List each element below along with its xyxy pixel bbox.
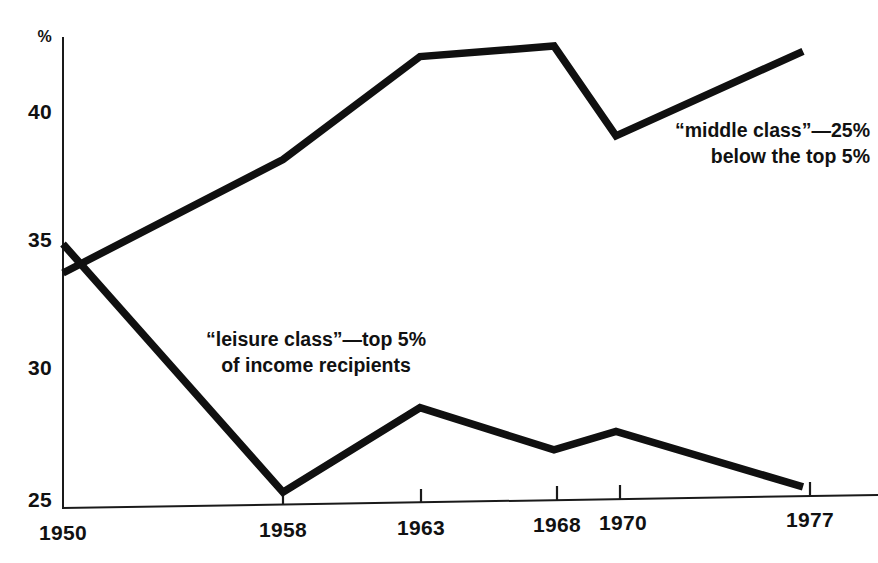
x-axis-line <box>63 495 878 508</box>
y-tick-label-25: 25 <box>6 488 52 512</box>
y-tick-label-35: 35 <box>6 228 52 252</box>
annotation-leisure-class-line2: of income recipients <box>206 353 426 379</box>
series-line-leisure-class <box>63 244 803 492</box>
x-tick-label-1963: 1963 <box>397 516 445 540</box>
annotation-leisure-class-line1: “leisure class”—top 5% <box>206 327 426 353</box>
y-axis-unit-label: % <box>6 28 52 46</box>
annotation-middle-class-line2: below the top 5% <box>675 144 870 170</box>
chart-plot-area <box>0 0 878 563</box>
annotation-middle-class: “middle class”—25% below the top 5% <box>675 118 870 169</box>
x-tick-label-1958: 1958 <box>259 518 307 542</box>
x-tick-label-1950: 1950 <box>39 521 87 545</box>
x-tick-label-1977: 1977 <box>786 508 834 532</box>
chart-figure: % 40 35 30 25 1950 1958 1963 1968 1970 1… <box>0 0 878 563</box>
y-tick-label-30: 30 <box>6 356 52 380</box>
x-tick-label-1970: 1970 <box>599 511 647 535</box>
y-tick-label-40: 40 <box>6 100 52 124</box>
x-tick-label-1968: 1968 <box>533 513 581 537</box>
annotation-leisure-class: “leisure class”—top 5% of income recipie… <box>206 327 426 378</box>
annotation-middle-class-line1: “middle class”—25% <box>675 118 870 144</box>
